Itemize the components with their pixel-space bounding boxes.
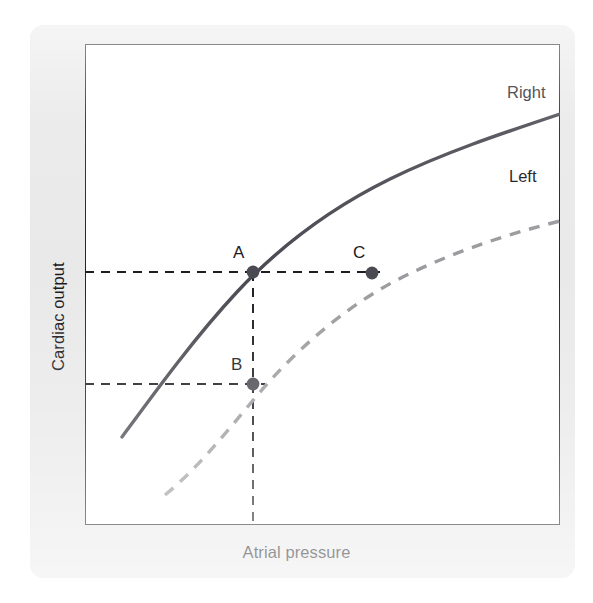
point-label-c: C [353,243,365,263]
point-label-a: A [233,243,244,263]
point-label-b: B [231,355,242,375]
curve-label-right: Right [507,83,546,102]
data-point-c [366,267,379,280]
y-axis-title: Cardiac output [49,262,68,371]
curve-right [122,114,560,437]
data-point-a [247,266,260,279]
plot-canvas [85,44,560,525]
data-point-markers [247,266,379,391]
curve-label-left: Left [509,167,537,186]
figure-root: Right Left A B C Cardiac output Atrial p… [0,0,593,603]
guide-lines [85,272,380,525]
x-axis-title: Atrial pressure [0,543,593,562]
data-point-b [247,378,260,391]
